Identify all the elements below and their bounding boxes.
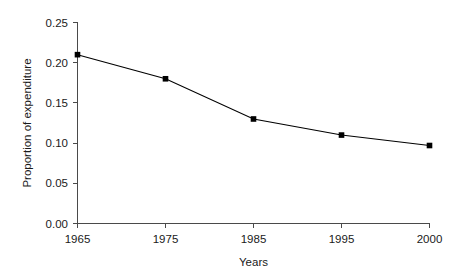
x-axis-title: Years xyxy=(239,256,268,268)
y-tick-label: 0.10 xyxy=(46,137,68,149)
y-tick-label: 0.20 xyxy=(46,57,68,69)
x-axis-ticks: 1965 1975 1985 1995 2000 xyxy=(65,224,443,246)
y-tick-label: 0.00 xyxy=(46,218,68,230)
y-axis-ticks: 0.00 0.05 0.10 0.15 0.20 0.25 xyxy=(46,17,78,230)
series-markers xyxy=(75,52,433,148)
x-tick-label: 2000 xyxy=(417,233,443,245)
x-tick-label: 1965 xyxy=(65,233,91,245)
series-marker xyxy=(251,116,257,122)
series-marker xyxy=(427,143,433,149)
x-tick-label: 1995 xyxy=(329,233,355,245)
line-chart-plot: 0.00 0.05 0.10 0.15 0.20 0.25 1965 1975 … xyxy=(0,0,461,280)
y-tick-label: 0.25 xyxy=(46,17,68,29)
series-marker xyxy=(163,76,169,82)
series-line xyxy=(78,55,430,146)
x-tick-label: 1985 xyxy=(241,233,267,245)
y-tick-label: 0.05 xyxy=(46,177,68,189)
series-marker xyxy=(75,52,81,58)
y-tick-label: 0.15 xyxy=(46,97,68,109)
x-tick-label: 1975 xyxy=(153,233,179,245)
chart-figure: 0.00 0.05 0.10 0.15 0.20 0.25 1965 1975 … xyxy=(0,0,461,280)
y-axis-title: Proportion of expenditure xyxy=(21,58,33,187)
series-marker xyxy=(339,132,345,138)
